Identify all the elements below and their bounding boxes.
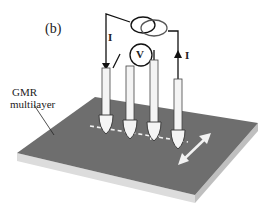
- gmr-multilayer-slab: [17, 97, 258, 195]
- current-source-icon: [131, 17, 167, 36]
- sample-label-line2: multilayer: [10, 98, 55, 110]
- current-label-right: I: [185, 49, 189, 61]
- current-arrow-up-icon: [174, 50, 182, 58]
- current-label-left: I: [108, 31, 112, 43]
- panel-label: (b): [45, 21, 61, 37]
- sample-label-line1: GMR: [12, 86, 37, 98]
- probe-3: [147, 60, 161, 141]
- voltmeter-label: V: [136, 48, 144, 60]
